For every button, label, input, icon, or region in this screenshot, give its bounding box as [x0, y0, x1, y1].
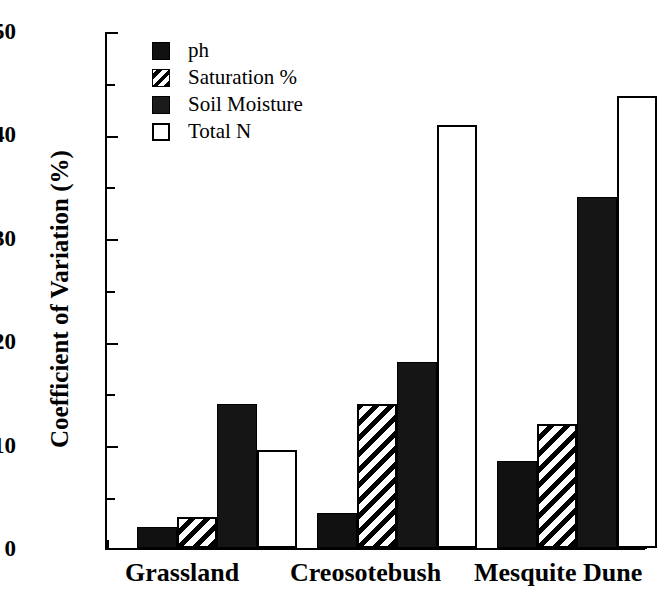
- y-tick-major-40: [107, 136, 118, 138]
- y-tick-label-50: 50: [0, 20, 16, 43]
- y-tick-label-20: 20: [0, 330, 16, 353]
- bar-mesquite-dune-total-n: [617, 96, 657, 548]
- bar-mesquite-dune-soil-moisture: [577, 197, 617, 548]
- legend-swatch-ph-icon: [152, 42, 170, 60]
- bar-creosotebush-total-n: [437, 125, 477, 548]
- legend-swatch-total-n-icon: [152, 123, 170, 141]
- legend-swatch-saturation-icon: [152, 69, 170, 87]
- bar-mesquite-dune-saturation: [537, 424, 577, 548]
- legend-item-soil-moisture: Soil Moisture: [152, 91, 382, 118]
- y-tick-label-30: 30: [0, 227, 16, 250]
- legend-label-saturation: Saturation %: [188, 67, 297, 88]
- y-tick-major-50: [107, 32, 118, 34]
- y-tick-minor-35: [107, 187, 115, 189]
- y-tick-label-0: 0: [0, 537, 16, 560]
- y-tick-minor-25: [107, 291, 115, 293]
- y-tick-label-40: 40: [0, 123, 16, 146]
- bar-grassland-saturation: [177, 517, 217, 548]
- y-tick-minor-15: [107, 394, 115, 396]
- y-tick-minor-5: [107, 498, 115, 500]
- y-tick-major-10: [107, 446, 118, 448]
- legend-item-ph: ph: [152, 37, 382, 64]
- bar-grassland-soil-moisture: [217, 404, 257, 549]
- x-category-label-grassland: Grassland: [125, 558, 239, 588]
- legend-swatch-soil-moisture-icon: [152, 96, 170, 114]
- x-category-label-creosotebush: Creosotebush: [290, 558, 441, 588]
- y-tick-major-20: [107, 343, 118, 345]
- bar-grassland-total-n: [257, 450, 297, 548]
- bar-creosotebush-soil-moisture: [397, 362, 437, 548]
- y-tick-major-30: [107, 239, 118, 241]
- bar-creosotebush-saturation: [357, 404, 397, 549]
- legend-item-total-n: Total N: [152, 118, 382, 145]
- bar-grassland-ph: [137, 527, 177, 548]
- legend-label-ph: ph: [188, 40, 209, 61]
- y-axis-title: Coefficient of Variation (%): [46, 89, 74, 509]
- legend-label-soil-moisture: Soil Moisture: [188, 94, 303, 115]
- y-tick-minor-45: [107, 84, 115, 86]
- y-tick-label-10: 10: [0, 434, 16, 457]
- x-category-label-mesquite-dune: Mesquite Dune: [474, 558, 642, 588]
- bar-mesquite-dune-ph: [497, 461, 537, 548]
- legend-item-saturation: Saturation %: [152, 64, 382, 91]
- x-tick-0: [107, 540, 109, 549]
- chart-legend: ph Saturation % Soil Moisture Total N: [152, 37, 382, 145]
- chart-figure: Coefficient of Variation (%) 50 40 30 20…: [0, 0, 669, 604]
- legend-label-total-n: Total N: [188, 121, 251, 142]
- bar-creosotebush-ph: [317, 513, 357, 548]
